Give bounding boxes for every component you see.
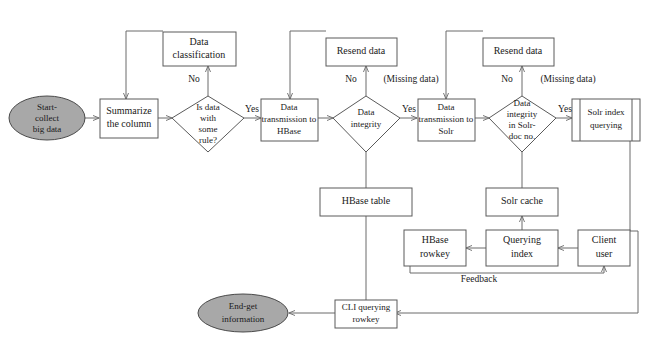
cli-querying-rowkey-label-1: CLI querying — [342, 302, 391, 312]
solr-index-querying-label-2: querying — [590, 120, 622, 130]
data-integrity-label-1: Data — [358, 107, 375, 117]
start-label-1: Start- — [37, 102, 57, 112]
node-hbase-table: HBase table — [320, 188, 412, 216]
summarize-label-2: the column — [107, 118, 152, 129]
flowchart-diagram: Start- collect big data Summarize the co… — [0, 0, 653, 344]
flowchart-canvas: Start- collect big data Summarize the co… — [0, 0, 653, 344]
node-end: End-get information — [198, 294, 288, 332]
node-querying-index: Querying index — [486, 230, 558, 266]
node-solr-cache: Solr cache — [486, 188, 558, 216]
hbase-rowkey-label-1: HBase — [422, 234, 449, 245]
node-transmission-hbase: Data transmission to HBase — [261, 99, 318, 141]
transmission-solr-label-2: transmission to — [419, 114, 474, 124]
node-cli-querying-rowkey: CLI querying rowkey — [335, 300, 397, 328]
integrity-solr-doc-label-1: Data — [514, 98, 531, 108]
is-data-rule-label-4: rule? — [199, 135, 217, 145]
edge-label-no-3: No — [501, 74, 513, 84]
cli-querying-rowkey-label-2: rowkey — [353, 314, 380, 324]
resend-data-2-label: Resend data — [494, 45, 543, 56]
transmission-solr-label-1: Data — [438, 102, 455, 112]
transmission-hbase-label-3: HBase — [277, 126, 301, 136]
integrity-solr-doc-label-2: integrity — [507, 109, 538, 119]
querying-index-label-1: Querying — [503, 234, 541, 245]
is-data-rule-label-1: Is data — [196, 102, 220, 112]
solr-index-querying-label-1: Solr index — [587, 107, 625, 117]
summarize-label-1: Summarize — [106, 105, 152, 116]
transmission-hbase-label-2: transmission to — [262, 114, 317, 124]
end-label-1: End-get — [229, 301, 258, 311]
edge-resend1-loop-to-hbase — [290, 31, 326, 99]
node-solr-index-querying: Solr index querying — [572, 99, 640, 141]
transmission-solr-label-3: Solr — [438, 126, 453, 136]
client-user-label-2: user — [596, 248, 613, 259]
node-start: Start- collect big data — [9, 96, 85, 140]
edge-label-no-2: No — [345, 74, 357, 84]
edge-label-no-1: No — [188, 74, 200, 84]
edge-label-yes-1: Yes — [245, 104, 259, 114]
data-integrity-label-2: integrity — [351, 119, 382, 129]
edge-label-missing-data-1: (Missing data) — [383, 74, 438, 85]
is-data-rule-label-2: with — [200, 113, 217, 123]
client-user-label-1: Client — [592, 234, 617, 245]
edge-classification-loop-to-summarize — [126, 31, 163, 99]
edge-label-missing-data-2: (Missing data) — [540, 74, 595, 85]
solr-cache-label: Solr cache — [501, 195, 543, 206]
node-summarize: Summarize the column — [100, 99, 158, 138]
resend-data-1-label: Resend data — [337, 45, 386, 56]
integrity-solr-doc-label-4: doc no. — [509, 131, 536, 141]
node-hbase-rowkey: HBase rowkey — [404, 230, 466, 266]
start-label-3: big data — [33, 124, 62, 134]
node-data-classification: Data classification — [163, 32, 236, 66]
node-client-user: Client user — [578, 230, 630, 266]
node-integrity-solr-doc: Data integrity in Solr- doc no. — [489, 96, 556, 152]
node-is-data-rule: Is data with some rule? — [172, 96, 244, 152]
node-resend-data-2: Resend data — [483, 38, 554, 66]
hbase-rowkey-label-2: rowkey — [420, 248, 450, 259]
node-data-integrity: Data integrity — [333, 96, 400, 152]
start-label-2: collect — [35, 113, 59, 123]
end-label-2: information — [222, 314, 265, 324]
integrity-solr-doc-label-3: in Solr- — [508, 120, 535, 130]
node-resend-data-1: Resend data — [326, 38, 397, 66]
node-transmission-solr: Data transmission to Solr — [418, 99, 475, 141]
end-ellipse-shape — [198, 294, 288, 332]
is-data-rule-label-3: some — [199, 124, 218, 134]
hbase-table-label: HBase table — [342, 195, 391, 206]
data-classification-label-2: classification — [173, 49, 226, 60]
edge-label-yes-3: Yes — [558, 104, 572, 114]
edge-label-yes-2: Yes — [402, 104, 416, 114]
edge-label-feedback: Feedback — [461, 274, 498, 284]
data-classification-label-1: Data — [190, 36, 209, 47]
querying-index-label-2: index — [511, 248, 533, 259]
edge-resend2-loop-to-solr — [446, 31, 483, 99]
transmission-hbase-label-1: Data — [281, 102, 298, 112]
